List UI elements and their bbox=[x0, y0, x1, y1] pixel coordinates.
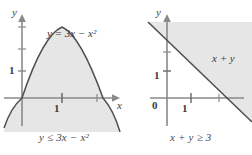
y-axis-arrowhead bbox=[18, 14, 26, 22]
y-tick-label-right: 1 bbox=[154, 70, 160, 81]
halfplane-svg bbox=[140, 0, 252, 132]
line-equation-label: x + y bbox=[212, 53, 235, 64]
figure-container: y x 1 1 y = 3x − x² y ≤ 3x − x² bbox=[0, 0, 252, 155]
caption-parabola: y ≤ 3x − x² bbox=[0, 131, 128, 143]
y-tick-label-left: 1 bbox=[9, 65, 15, 76]
x-tick-label-right: 1 bbox=[182, 103, 188, 114]
panel-parabola: y x 1 1 y = 3x − x² y ≤ 3x − x² bbox=[0, 0, 128, 155]
y-axis-arrowhead bbox=[163, 14, 171, 22]
caption-halfplane: x + y ≥ 3 bbox=[140, 131, 252, 143]
y-axis-label-left: y bbox=[12, 7, 17, 18]
x-axis-label-left: x bbox=[117, 100, 122, 111]
plot-halfplane bbox=[140, 0, 252, 132]
plot-parabola bbox=[0, 0, 128, 132]
origin-label-right: 0 bbox=[152, 100, 158, 111]
parabola-equation-label: y = 3x − x² bbox=[47, 28, 96, 39]
panel-halfplane: y 0 1 1 x + y x + y ≥ 3 bbox=[140, 0, 252, 155]
x-tick-label-left: 1 bbox=[54, 103, 60, 114]
parabola-svg bbox=[0, 0, 128, 132]
y-axis-label-right: y bbox=[156, 7, 161, 18]
